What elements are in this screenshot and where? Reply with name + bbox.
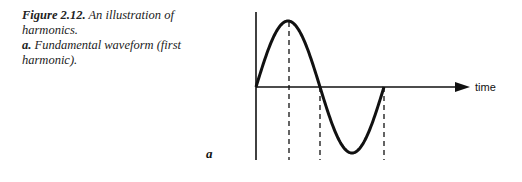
x-axis-label: time bbox=[475, 81, 496, 93]
x-axis-arrow-icon bbox=[455, 82, 470, 92]
waveform-chart: time bbox=[0, 0, 522, 182]
